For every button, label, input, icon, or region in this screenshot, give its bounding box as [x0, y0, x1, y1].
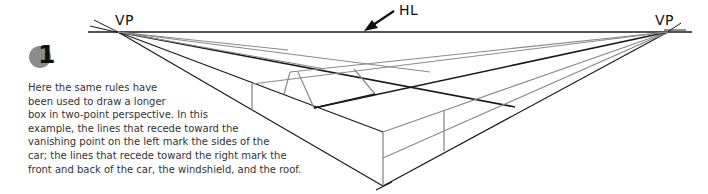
caption-text: Here the same rules have been used to dr…: [28, 81, 328, 176]
caption-line: Here the same rules have: [28, 81, 328, 95]
left-vp-label: VP: [115, 12, 134, 28]
right-vp-label: VP: [655, 12, 674, 28]
horizon-label: HL: [399, 2, 418, 18]
step-number: 1: [38, 40, 55, 69]
caption-line: vanishing point on the left mark the sid…: [28, 135, 328, 149]
step-number-badge: 1: [28, 42, 54, 70]
arrow-icon: [364, 11, 394, 31]
caption-line: car; the lines that recede toward the ri…: [28, 149, 328, 163]
caption-line: example, the lines that recede toward th…: [28, 122, 328, 136]
caption-line: been used to draw a longer: [28, 95, 328, 109]
caption-line: box in two-point perspective. In this: [28, 108, 328, 122]
caption-line: front and back of the car, the windshiel…: [28, 163, 328, 177]
